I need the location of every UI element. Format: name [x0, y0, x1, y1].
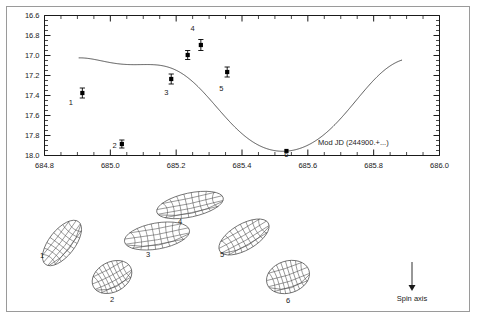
- lightcurve-plot: 16.616.817.017.217.417.617.818.0684.8685…: [0, 0, 477, 180]
- x-axis-label: Mod JD (244900.+...): [318, 138, 389, 147]
- shape-model-label: 2: [110, 295, 114, 304]
- x-tick-label: 685.2: [167, 161, 186, 170]
- shape-model-label: 5: [220, 250, 224, 259]
- x-tick-label: 684.8: [35, 161, 54, 170]
- data-point-label: 2: [113, 141, 117, 150]
- shape-model: [262, 255, 314, 299]
- shape-model: [35, 214, 89, 273]
- y-tick-label: 18.0: [25, 151, 40, 160]
- y-tick-label: 17.0: [25, 51, 40, 60]
- data-point: [185, 51, 190, 60]
- data-point-label: 6: [284, 150, 288, 159]
- shape-models-svg: 123456 Spin axis: [0, 180, 477, 319]
- data-point-label: 5: [219, 84, 223, 93]
- x-tick-label: 685.4: [233, 161, 252, 170]
- lightcurve-svg: 16.616.817.017.217.417.617.818.0684.8685…: [0, 0, 477, 180]
- data-points: 123456: [69, 24, 289, 159]
- data-point-label: 1: [69, 98, 73, 107]
- y-tick-label: 17.4: [25, 91, 40, 100]
- y-tick-label: 17.2: [25, 71, 40, 80]
- data-point: [225, 67, 230, 77]
- data-point: [169, 74, 174, 84]
- x-tick-label: 686.0: [430, 161, 449, 170]
- data-point: [119, 140, 124, 148]
- data-point-label: 3: [164, 88, 168, 97]
- spin-axis-label: Spin axis: [397, 294, 428, 303]
- figure-root: 16.616.817.017.217.417.617.818.0684.8685…: [0, 0, 477, 319]
- data-point: [198, 40, 203, 51]
- shape-model-label: 1: [40, 251, 44, 260]
- shape-model: [154, 186, 226, 224]
- shape-model-group: 123456: [35, 186, 314, 305]
- shape-model-panel: 123456 Spin axis: [0, 180, 477, 319]
- x-tick-label: 685.6: [298, 161, 317, 170]
- shape-model-label: 3: [146, 250, 150, 259]
- shape-model: [86, 254, 137, 300]
- y-tick-label: 17.6: [25, 111, 40, 120]
- shape-model-label: 4: [178, 217, 182, 226]
- y-tick-label: 16.6: [25, 11, 40, 20]
- y-tick-label: 16.8: [25, 31, 40, 40]
- x-tick-label: 685.0: [101, 161, 120, 170]
- data-point-label: 4: [191, 24, 195, 33]
- y-tick-label: 17.8: [25, 131, 40, 140]
- data-point: [80, 88, 85, 98]
- spin-axis-indicator: Spin axis: [397, 262, 428, 303]
- x-tick-label: 685.8: [364, 161, 383, 170]
- shape-model-label: 6: [286, 296, 290, 305]
